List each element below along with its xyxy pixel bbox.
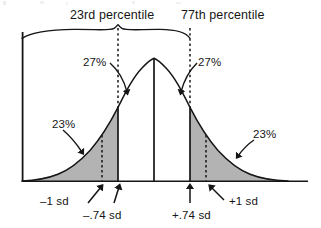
arrow-23-right bbox=[238, 140, 254, 156]
tick-arrow-minus-1-sd bbox=[88, 187, 101, 203]
tick-arrow-minus-074-sd bbox=[114, 187, 119, 203]
axis-label-minus-1-sd: –1 sd bbox=[40, 196, 69, 208]
axis-label-minus-074-sd: –.74 sd bbox=[83, 210, 121, 222]
label-77th-percentile: 77th percentile bbox=[181, 9, 265, 22]
label-23-percent-left-tail: 23% bbox=[52, 119, 75, 131]
arrow-27-right bbox=[181, 63, 197, 92]
tick-arrow-plus-1-sd bbox=[211, 187, 224, 200]
distribution-chart-svg bbox=[0, 0, 321, 228]
label-27-percent-right: 27% bbox=[198, 57, 221, 69]
label-27-percent-left: 27% bbox=[83, 57, 106, 69]
arrow-27-left bbox=[110, 63, 127, 92]
percentile-brace bbox=[22, 25, 190, 39]
right-tail-shade bbox=[190, 107, 288, 181]
axis-label-plus-074-sd: +.74 sd bbox=[172, 210, 211, 222]
label-23-percent-right-tail: 23% bbox=[253, 129, 276, 141]
label-23rd-percentile: 23rd percentile bbox=[70, 9, 154, 22]
axis-label-plus-1-sd: +1 sd bbox=[229, 196, 258, 208]
arrow-23-left bbox=[63, 130, 82, 152]
normal-curve-figure: 23rd percentile 77th percentile 27% 27% … bbox=[0, 0, 321, 228]
